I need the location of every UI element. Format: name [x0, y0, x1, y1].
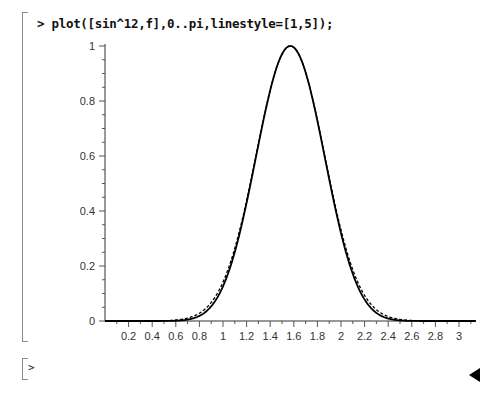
next-input-prompt[interactable]: >	[28, 361, 35, 374]
plot-area: 0.20.40.60.811.21.41.61.822.22.42.62.830…	[0, 0, 498, 345]
sin12-solid-curve	[105, 46, 476, 321]
svg-text:2.8: 2.8	[428, 330, 443, 342]
svg-text:1.8: 1.8	[310, 330, 325, 342]
next-prompt-bracket	[22, 358, 23, 380]
cursor-triangle-icon	[469, 368, 480, 382]
svg-text:0.8: 0.8	[80, 95, 95, 107]
svg-text:0.4: 0.4	[145, 330, 160, 342]
svg-text:2.4: 2.4	[381, 330, 396, 342]
svg-text:1.4: 1.4	[263, 330, 278, 342]
svg-text:0.6: 0.6	[80, 150, 95, 162]
svg-text:3: 3	[456, 330, 462, 342]
svg-text:1.6: 1.6	[286, 330, 301, 342]
f-dashed-curve	[105, 46, 476, 321]
svg-text:1.2: 1.2	[239, 330, 254, 342]
svg-text:2.2: 2.2	[357, 330, 372, 342]
svg-text:0.6: 0.6	[168, 330, 183, 342]
svg-text:0.2: 0.2	[121, 330, 136, 342]
plot-axes: 0.20.40.60.811.21.41.61.822.22.42.62.830…	[80, 40, 476, 342]
svg-text:0: 0	[89, 315, 95, 327]
svg-text:2: 2	[338, 330, 344, 342]
svg-text:2.6: 2.6	[404, 330, 419, 342]
svg-text:0.4: 0.4	[80, 205, 95, 217]
svg-text:0.8: 0.8	[192, 330, 207, 342]
svg-text:1: 1	[89, 40, 95, 52]
svg-text:0.2: 0.2	[80, 260, 95, 272]
svg-text:1: 1	[220, 330, 226, 342]
